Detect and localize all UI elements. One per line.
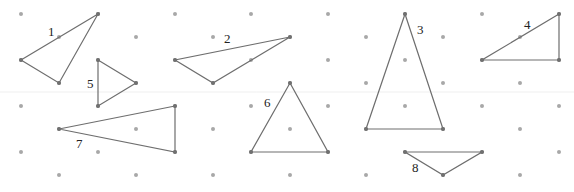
triangle-outline: [482, 14, 559, 60]
triangle-outline: [366, 14, 443, 129]
triangle-vertex: [173, 104, 177, 108]
triangle-vertex: [288, 35, 292, 39]
grid-dot: [211, 35, 215, 39]
triangle-vertex: [96, 104, 100, 108]
grid-dot: [364, 173, 368, 177]
triangle-vertex: [403, 150, 407, 154]
triangle-outline: [21, 14, 98, 83]
triangle-outline: [98, 60, 136, 106]
triangle-label: 2: [224, 31, 231, 46]
triangle-label: 8: [412, 160, 419, 175]
triangle-vertex: [134, 81, 138, 85]
grid-dot: [441, 81, 445, 85]
grid-dot: [57, 173, 61, 177]
grid-dot: [403, 104, 407, 108]
grid-dot: [249, 104, 253, 108]
triangle-7: 7: [57, 104, 177, 154]
grid-dot: [249, 12, 253, 16]
grid-dot: [19, 150, 23, 154]
grid-dot: [441, 35, 445, 39]
grid-dot: [326, 58, 330, 62]
grid-dot: [288, 173, 292, 177]
triangle-vertex: [57, 81, 61, 85]
grid-dot: [557, 104, 561, 108]
grid-dot: [134, 35, 138, 39]
triangle-5: 5: [87, 58, 138, 108]
triangle-vertex: [441, 173, 445, 177]
triangle-vertex: [480, 150, 484, 154]
triangle-vertex: [249, 150, 253, 154]
grid-dot: [96, 150, 100, 154]
triangle-vertex: [173, 150, 177, 154]
triangle-vertex: [57, 127, 61, 131]
triangle-label: 5: [87, 76, 94, 91]
triangle-vertex: [96, 12, 100, 16]
grid-dot: [19, 12, 23, 16]
triangle-vertex: [557, 12, 561, 16]
grid-dot: [19, 104, 23, 108]
triangle-4: 4: [480, 12, 561, 62]
grid-dot: [211, 173, 215, 177]
triangle-vertex: [480, 58, 484, 62]
triangle-8: 8: [403, 150, 484, 177]
grid-dot: [134, 127, 138, 131]
triangle-outline: [251, 83, 328, 152]
triangle-vertex: [364, 127, 368, 131]
grid-dot: [403, 58, 407, 62]
grid-dot: [518, 127, 522, 131]
grid-dot: [480, 104, 484, 108]
grid-dot: [518, 81, 522, 85]
grid-dot: [173, 12, 177, 16]
grid-dot: [557, 150, 561, 154]
triangle-2: 2: [173, 31, 292, 85]
grid-dot: [326, 104, 330, 108]
triangle-vertex: [326, 150, 330, 154]
triangle-label: 3: [417, 22, 424, 37]
triangle-vertex: [441, 127, 445, 131]
triangle-label: 7: [76, 136, 83, 151]
triangle-vertex: [211, 81, 215, 85]
triangle-vertex: [557, 58, 561, 62]
triangle-vertex: [173, 58, 177, 62]
grid-dot: [364, 81, 368, 85]
grid-dot: [480, 12, 484, 16]
triangle-vertex: [288, 81, 292, 85]
grid-dot: [364, 35, 368, 39]
grid-dot: [211, 127, 215, 131]
triangles: 12345678: [19, 12, 561, 177]
triangle-3: 3: [364, 12, 445, 131]
triangle-vertex: [96, 58, 100, 62]
triangle-label: 6: [264, 95, 271, 110]
triangle-1: 1: [19, 12, 100, 85]
grid-dot: [518, 173, 522, 177]
triangle-label: 4: [524, 17, 531, 32]
triangle-dot-grid-diagram: 12345678: [0, 0, 574, 192]
grid-dot: [134, 173, 138, 177]
triangle-vertex: [403, 12, 407, 16]
triangle-label: 1: [48, 24, 55, 39]
grid-dot: [288, 127, 292, 131]
grid-dot: [326, 12, 330, 16]
triangle-vertex: [19, 58, 23, 62]
triangle-outline: [175, 37, 290, 83]
